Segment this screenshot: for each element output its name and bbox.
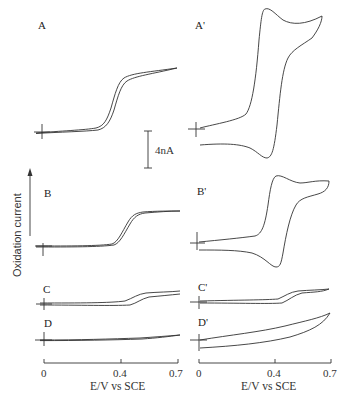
arrow-up-icon [28, 168, 33, 176]
right-tick-0-4: 0.4 [267, 368, 281, 379]
left-tick-0: 0 [41, 368, 47, 379]
panel-label-c-prime: C' [198, 282, 207, 293]
trace-b [35, 211, 180, 256]
plot-canvas [0, 0, 349, 396]
left-tick-0-4: 0.4 [113, 368, 127, 379]
trace-c [36, 291, 180, 310]
panel-label-b: B [44, 188, 51, 199]
panel-label-d-prime: D' [198, 317, 208, 328]
panel-label-c: C [43, 284, 50, 295]
trace-d-prime [190, 313, 330, 351]
right-x-axis [199, 359, 331, 363]
scale-bar-label: 4nA [155, 145, 174, 156]
trace-a-prime [188, 9, 322, 158]
trace-c-prime [190, 289, 329, 309]
left-x-axis [44, 359, 178, 363]
trace-d [35, 332, 180, 346]
right-tick-0-7: 0.7 [323, 368, 337, 379]
right-x-axis-label: E/V vs SCE [241, 381, 296, 393]
left-tick-0-7: 0.7 [169, 368, 183, 379]
trace-a [34, 68, 177, 139]
scale-bar [144, 131, 152, 168]
trace-b-prime [190, 176, 329, 267]
panel-label-b-prime: B' [197, 186, 206, 197]
panel-label-a: A [38, 20, 46, 31]
voltammetry-figure: Oxidation current 4nA A A' B B' C C' D D… [0, 0, 349, 396]
panel-label-d: D [44, 318, 52, 329]
right-tick-0: 0 [196, 368, 202, 379]
panel-label-a-prime: A' [195, 20, 205, 31]
left-x-axis-label: E/V vs SCE [90, 381, 145, 393]
y-axis-label: Oxidation current [12, 193, 23, 277]
